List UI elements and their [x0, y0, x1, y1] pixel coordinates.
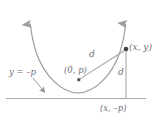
directrix-label-pointer [33, 78, 45, 92]
label-directrix-equation: y = –p [9, 68, 36, 77]
parabola-figure: (x, y) (0, p) y = –p (x, –p) d d [0, 0, 152, 119]
label-foot-point: (x, –p) [100, 104, 127, 113]
focus-point-dot [77, 78, 80, 81]
label-distance-upper: d [89, 50, 95, 59]
label-distance-lower: d [118, 68, 124, 77]
parabola-diagram-canvas [0, 0, 152, 119]
parabola-right-arm [78, 24, 126, 93]
point-xy-dot [124, 47, 129, 52]
label-focus-point: (0, p) [64, 66, 87, 75]
label-point-xy: (x, y) [129, 43, 152, 52]
